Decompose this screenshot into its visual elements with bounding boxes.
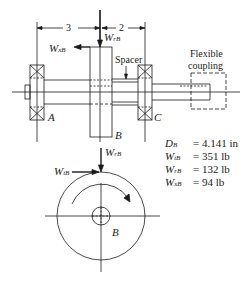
spec-row-db: DB= 4.141 in: [165, 137, 238, 150]
spacer-label: Spacer: [115, 55, 142, 65]
spec-row-wxb: WxB= 94 lb: [165, 176, 238, 189]
force-label-wrb-top: WrB: [104, 32, 120, 43]
spec-symbol: WxB: [165, 176, 193, 191]
spec-row-wrb: WrB= 132 lb: [165, 163, 238, 176]
gear-b-label: B: [115, 130, 122, 141]
spec-value: = 4.141 in: [193, 137, 238, 149]
force-label-wrb-end: WrB: [105, 147, 121, 158]
gear-end-label: B: [112, 227, 119, 238]
spec-value: = 351 lb: [193, 150, 230, 162]
spec-value: = 94 lb: [193, 176, 224, 188]
coupling-label-line2: coupling: [188, 61, 223, 71]
flexible-coupling: [191, 73, 226, 109]
coupling-label-line1: Flexible: [190, 49, 223, 59]
bearing-a-label: A: [48, 112, 55, 123]
force-label-wxb: WxB: [49, 43, 66, 54]
spec-row-wtb: WtB= 351 lb: [165, 150, 238, 163]
force-label-wtb: WtB: [54, 166, 69, 177]
specs-block: DB= 4.141 in WtB= 351 lb WrB= 132 lb WxB…: [165, 137, 238, 189]
spec-value: = 132 lb: [193, 163, 230, 175]
bearing-c-label: C: [154, 112, 161, 123]
dimension-3: 3: [66, 23, 71, 33]
